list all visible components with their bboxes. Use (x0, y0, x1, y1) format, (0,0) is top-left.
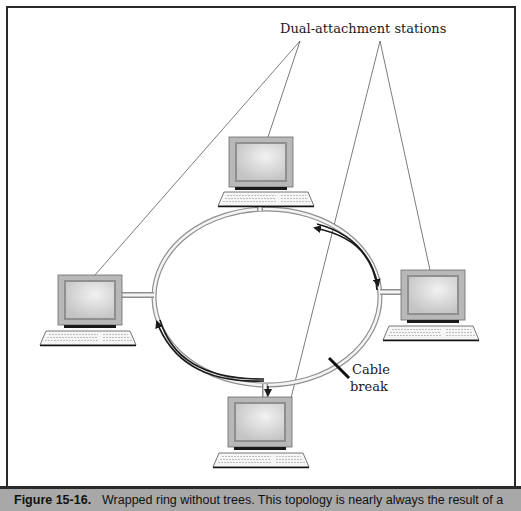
keyboard-icon (40, 331, 136, 346)
keyboard-icon (218, 192, 314, 207)
wrapped-signal-path (157, 224, 378, 395)
monitor-icon (228, 397, 292, 450)
figure-caption: Figure 15-16. Wrapped ring without trees… (0, 486, 521, 511)
monitor-icon (401, 270, 465, 323)
cable-break-label-line1: Cable (352, 362, 390, 377)
monitor-icon (229, 137, 293, 190)
ring-cable (154, 209, 380, 385)
top-station (218, 137, 314, 207)
callout-leader-lines (95, 41, 430, 398)
caption-number: Figure 15-16. (14, 493, 102, 507)
ring-topology-diagram: Dual-attachment stations Cable break (0, 0, 521, 511)
left-station (40, 275, 136, 346)
cable-break-label-line2: break (350, 379, 388, 394)
figure: Dual-attachment stations Cable break Fig… (0, 0, 521, 511)
right-station (383, 270, 479, 341)
callout-label: Dual-attachment stations (280, 21, 446, 36)
keyboard-icon (383, 326, 479, 341)
caption-text: Wrapped ring without trees. This topolog… (102, 493, 503, 507)
keyboard-icon (213, 453, 309, 468)
bottom-station (213, 397, 309, 468)
monitor-icon (58, 275, 122, 328)
